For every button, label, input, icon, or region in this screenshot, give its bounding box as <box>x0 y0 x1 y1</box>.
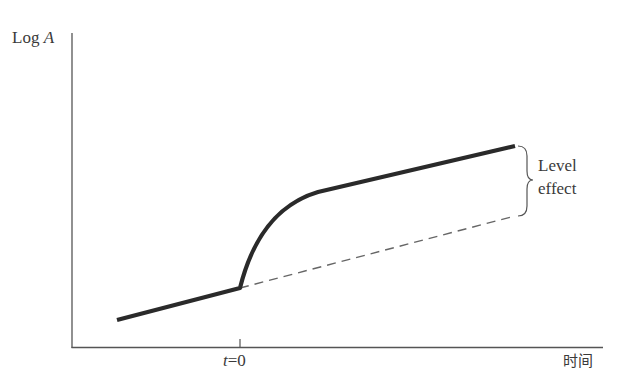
actual-path-line <box>117 146 515 320</box>
t0-tick-label: t=0 <box>223 351 246 370</box>
level-effect-label-line1: Level <box>538 156 577 175</box>
y-axis-label: Log A <box>12 28 55 47</box>
level-effect-label-line2: effect <box>538 179 577 198</box>
level-effect-diagram: Log A t=0 时间 Level effect <box>0 0 625 392</box>
level-effect-brace <box>518 146 533 216</box>
x-axis-label: 时间 <box>563 352 593 370</box>
counterfactual-trend-line <box>240 216 515 288</box>
